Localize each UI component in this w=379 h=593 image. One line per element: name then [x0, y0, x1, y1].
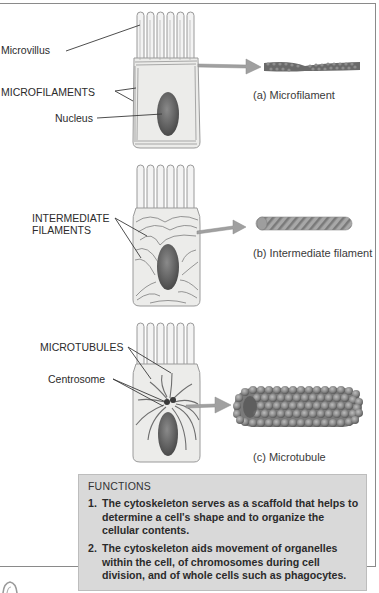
caption-microtubule: (c) Microtubule [253, 451, 326, 464]
label-microvillus: Microvillus [1, 44, 50, 56]
function-text: The cytoskeleton aids movement of organe… [102, 542, 364, 583]
cell-b [133, 165, 200, 306]
microfilament-strand [264, 62, 360, 72]
publisher-logo-icon [2, 580, 18, 593]
function-item-1: 1. The cytoskeleton serves as a scaffold… [88, 497, 368, 539]
arrow-a [198, 59, 261, 74]
function-text: The cytoskeleton serves as a scaffold th… [102, 497, 364, 538]
function-number: 2. [88, 542, 97, 556]
function-number: 1. [88, 497, 97, 511]
functions-box: FUNCTIONS 1. The cytoskeleton serves as … [78, 474, 367, 591]
label-microfilaments: MICROFILAMENTS [1, 86, 95, 98]
label-nucleus: Nucleus [55, 112, 93, 124]
caption-intermediate-filament: (b) Intermediate filament [253, 247, 372, 260]
caption-microfilament: (a) Microfilament [253, 89, 335, 102]
intermediate-filament-rope [256, 217, 352, 230]
microtubule-cylinder [233, 386, 363, 427]
function-item-2: 2. The cytoskeleton aids movement of org… [88, 542, 368, 584]
arrow-b [197, 220, 246, 234]
label-filaments: FILAMENTS [32, 224, 91, 236]
label-centrosome: Centrosome [48, 373, 105, 385]
label-intermediate: INTERMEDIATE [32, 212, 109, 224]
functions-title: FUNCTIONS [88, 480, 151, 492]
label-microtubules: MICROTUBULES [40, 341, 123, 353]
cell-c [133, 323, 200, 462]
cell-a [133, 12, 200, 148]
